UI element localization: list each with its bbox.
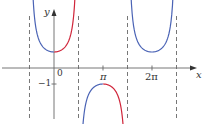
curve-branch-3 (131, 0, 173, 52)
curve-branch-2-left (82, 84, 103, 124)
tick-label-two-pi: 2π (145, 72, 158, 82)
curve-branch-1-right (54, 0, 75, 52)
tick-label-pi: π (100, 72, 107, 82)
curve-branch-2-right (103, 84, 124, 124)
y-axis-label: y (44, 7, 50, 17)
sec-graph (0, 0, 210, 124)
y-axis-arrow-icon (52, 9, 57, 16)
tick-label-neg-one: −1 (38, 79, 51, 88)
two-pi-label: 2π (145, 71, 158, 82)
origin-label: 0 (57, 69, 63, 78)
axes (2, 9, 197, 119)
x-axis-label: x (196, 70, 202, 80)
